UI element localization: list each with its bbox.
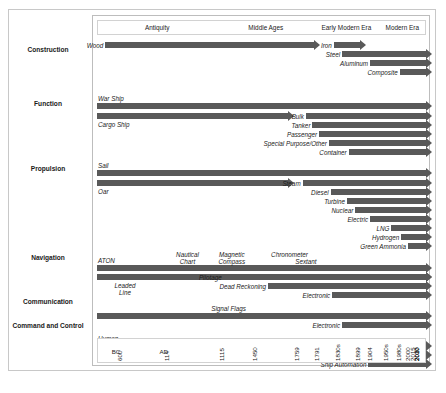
bar-label-bulk: Bulk [174,113,304,120]
bar-container [349,149,426,155]
bar-label-steam: Steam [171,180,301,187]
figure-caption [10,381,430,391]
bar-label-special-purpose-other: Special Purpose/Other [197,140,327,147]
axis-tick-1450: 1450 [251,347,258,361]
bar-turbine [347,198,426,204]
axis-tick-1899: 1899 [354,347,361,361]
bar-label-dead-reckoning: Dead Reckoning [136,283,266,290]
bar-signal-flags [97,313,426,319]
bar-steam [303,180,426,186]
axis-tick-1830s: 1830s [334,344,341,361]
bar-label-steel: Steel [210,51,340,58]
axis-tick-1904: 1904 [366,347,373,361]
bar-diesel [331,189,426,195]
bar-label-aluminum: Aluminum [238,60,368,67]
bar-composite [400,69,426,75]
bar-hydrogen [401,234,426,240]
era-header-strip: AntiquityMiddle AgesEarly Modern EraMode… [97,20,426,35]
category-label-communication: Communication [9,298,87,306]
bar-label-lng: LNG [259,225,389,232]
bar-label-green-ammonia: Green Ammonia [276,243,406,250]
bar-nuclear [355,207,426,213]
bar-passenger [319,131,426,137]
category-label-navigation: Navigation [9,254,87,262]
axis-tick-1950s: 1950s [382,344,389,361]
bar-tanker [312,122,426,128]
era-label-modern-era: Modern Era [378,21,427,34]
category-label-function: Function [9,100,87,108]
bar-label-electric: Electric [238,216,368,223]
bar-label-diesel: Diesel [199,189,329,196]
bar-label-container: Container [217,149,347,156]
bar-label-signal-flags: Signal Flags [169,305,289,312]
era-label-early-modern-era: Early Modern Era [315,21,378,34]
bar-label-oar: Oar [98,188,109,195]
bar-aluminum [370,60,426,66]
floating-label-magnetic-compass: Magnetic Compass [204,251,260,265]
bar-steel [342,51,426,57]
bar-label-pilotage: Pilotage [92,274,222,281]
time-axis-strip: 600BC114AD11151450175917911830s189919041… [97,338,426,363]
figure-container: ConstructionFunctionPropulsionNavigation… [8,9,436,371]
bar-label-nuclear: Nuclear [223,207,353,214]
bar-sail [97,170,426,176]
bar-label-cargo-ship: Cargo Ship [98,121,130,128]
bar-dead-reckoning [268,283,426,289]
bar-label-passenger: Passenger [187,131,317,138]
category-label-propulsion: Propulsion [9,165,87,173]
axis-tick-1980s: 1980s [395,344,402,361]
bar-label-composite: Composite [268,69,398,76]
bar-label-turbine: Turbine [215,198,345,205]
axis-tick-1759: 1759 [293,347,300,361]
bar-label-tanker: Tanker [180,122,310,129]
axis-tick-2030: 2030 [413,347,420,361]
axis-tick-1115: 1115 [218,348,225,361]
bar-green-ammonia [408,243,426,249]
floating-label-sextant: Sextant [278,258,334,265]
bar-war-ship [97,103,426,109]
timeline-bars-canvas: WoodIronSteelAluminumCompositeWar ShipCa… [97,37,426,331]
era-label-antiquity: Antiquity [98,21,216,34]
category-axis: ConstructionFunctionPropulsionNavigation… [9,10,89,370]
bar-label-wood: Wood [0,42,103,49]
bar-lng [391,225,426,231]
bar-aton [97,265,426,271]
axis-tick-prefix-bc: BC [112,348,121,355]
bar-iron [334,42,360,48]
bar-label-electronic: Electronic [200,292,330,299]
bar-label-hydrogen: Hydrogen [269,234,399,241]
bar-label-iron: Iron [202,42,332,49]
axis-tick-1791: 1791 [313,347,320,361]
bar-bulk [306,113,426,119]
bar-pilotage [224,274,426,280]
bar-label-electronic: Electronic [210,322,340,329]
bar-electronic [342,322,426,328]
bar-label-sail: Sail [98,162,109,169]
bar-label-aton: ATON [98,257,115,264]
category-label-command-and-control: Command and Control [9,322,87,330]
bar-electric [370,216,426,222]
bar-electronic [332,292,426,298]
bar-label-war-ship: War Ship [98,95,124,102]
bar-special-purpose-other [329,140,426,146]
axis-tick-prefix-ad: AD [159,348,168,355]
plot-area: AntiquityMiddle AgesEarly Modern EraMode… [92,15,430,366]
era-label-middle-ages: Middle Ages [216,21,315,34]
